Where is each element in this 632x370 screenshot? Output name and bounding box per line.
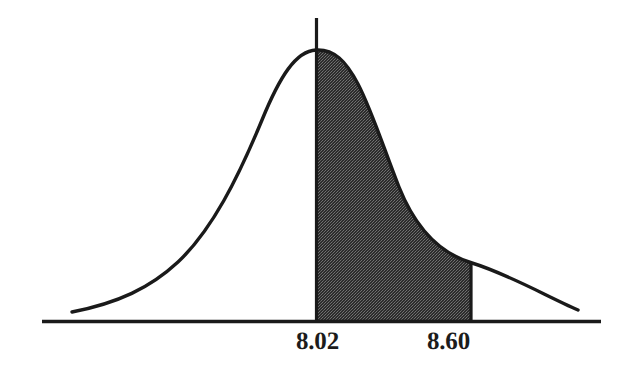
normal-curve-plot [0,0,632,370]
normal-curve-figure: 8.02 8.60 [0,0,632,370]
lower-bound-label: 8.02 [296,329,339,354]
shaded-area-region [317,51,471,320]
upper-bound-label: 8.60 [427,329,470,354]
